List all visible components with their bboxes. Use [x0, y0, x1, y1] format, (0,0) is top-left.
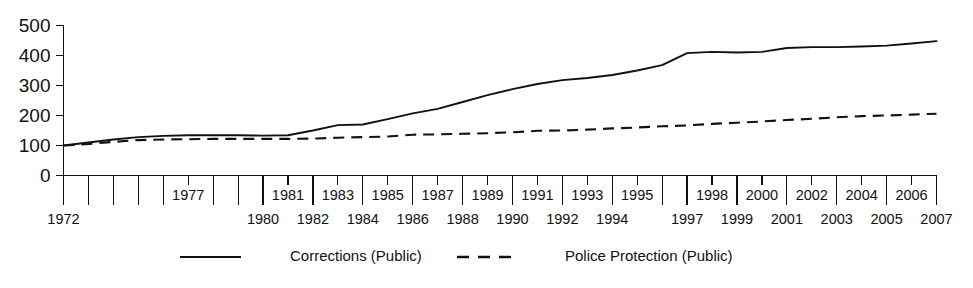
x-axis-label-top: 1995: [621, 187, 653, 203]
series-line-2: [64, 114, 937, 146]
x-axis-label-bottom: 1997: [671, 211, 703, 227]
x-axis-label-bottom: 2003: [821, 211, 853, 227]
x-axis-label-bottom: 1986: [397, 211, 429, 227]
x-axis-label-top: 1998: [696, 187, 728, 203]
x-axis-label-top: 1987: [422, 187, 454, 203]
x-axis-label-bottom: 1999: [721, 211, 753, 227]
y-axis-tick-label: 300: [19, 75, 51, 96]
y-axis-tick-label: 200: [19, 105, 51, 126]
x-axis-label-top: 1989: [471, 187, 503, 203]
x-axis-label-top: 1983: [322, 187, 354, 203]
x-axis-label-top: 2002: [796, 187, 828, 203]
x-axis-label-top: 1981: [272, 187, 304, 203]
x-axis-label-top: 2006: [895, 187, 927, 203]
x-axis-label-bottom: 1980: [247, 211, 279, 227]
x-axis-label-bottom: 1988: [446, 211, 478, 227]
series-line-1: [64, 41, 937, 145]
y-axis-tick-label: 100: [19, 135, 51, 156]
x-axis-label-bottom: 1982: [297, 211, 329, 227]
x-axis-label-bottom: 1990: [496, 211, 528, 227]
x-axis-label-top: 2004: [846, 187, 878, 203]
x-axis-label-bottom: 1972: [47, 211, 79, 227]
line-chart: 0100200300400500 19771981198319851987198…: [0, 0, 973, 288]
x-axis-label-bottom: 2007: [920, 211, 952, 227]
x-axis-label-top: 1985: [372, 187, 404, 203]
x-axis-label-bottom: 2005: [870, 211, 902, 227]
y-axis-tick-label: 0: [40, 165, 51, 186]
x-axis-label-top: 1991: [521, 187, 553, 203]
legend-label-2: Police Protection (Public): [565, 247, 733, 264]
y-axis-tick-label: 500: [19, 15, 51, 36]
x-axis-label-bottom: 2001: [771, 211, 803, 227]
chart-container: 0100200300400500 19771981198319851987198…: [0, 0, 973, 288]
x-axis-labels-bottom-row: 1972198019821984198619881990199219941997…: [47, 211, 952, 227]
x-axis-labels-top-row: 1977198119831985198719891991199319951998…: [172, 187, 928, 203]
y-axis: 0100200300400500: [19, 15, 64, 186]
x-axis-label-top: 2000: [746, 187, 778, 203]
x-axis-label-bottom: 1994: [596, 211, 628, 227]
x-axis-label-bottom: 1992: [546, 211, 578, 227]
y-axis-tick-label: 400: [19, 45, 51, 66]
x-axis-label-bottom: 1984: [347, 211, 379, 227]
chart-legend: Corrections (Public)Police Protection (P…: [180, 247, 733, 264]
legend-label-1: Corrections (Public): [290, 247, 422, 264]
series-layer: [64, 41, 937, 145]
x-axis-label-top: 1977: [172, 187, 204, 203]
x-axis-label-top: 1993: [571, 187, 603, 203]
